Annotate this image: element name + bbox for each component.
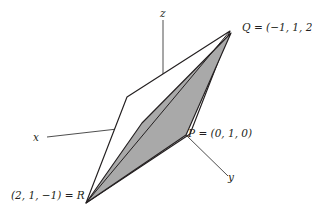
figure-container: z x y Q = (−1, 1, 2) P = (0, 1, 0) (2, 1… — [0, 0, 312, 222]
y-axis-line — [186, 135, 228, 176]
axis-label-x: x — [33, 132, 39, 143]
diagonal-R-to-Q — [86, 31, 230, 203]
axis-label-y: y — [228, 172, 234, 183]
point-label-r: (2, 1, −1) = R — [11, 190, 85, 201]
point-label-q: Q = (−1, 1, 2) — [242, 22, 312, 33]
axis-label-z: z — [160, 8, 166, 19]
point-label-p: P = (0, 1, 0) — [188, 128, 252, 139]
